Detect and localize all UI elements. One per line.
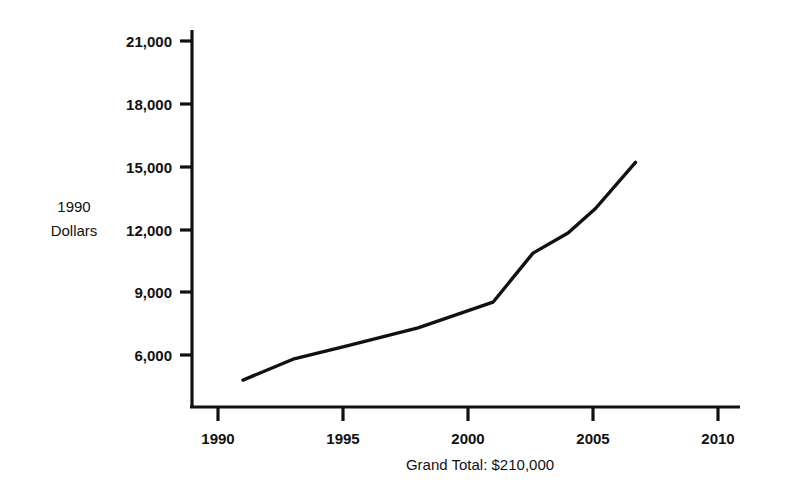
x-axis-tick-labels: 1990 1995 2000 2005 2010	[201, 430, 734, 447]
chart-canvas: 21,000 18,000 15,000 12,000 9,000 6,000 …	[0, 0, 787, 501]
x-tick-label-1995: 1995	[326, 430, 359, 447]
y-tick-label-12000: 12,000	[126, 222, 172, 239]
data-series-line	[243, 162, 636, 380]
x-tick-label-2010: 2010	[701, 430, 734, 447]
x-tick-label-2000: 2000	[451, 430, 484, 447]
y-tick-label-6000: 6,000	[134, 347, 172, 364]
y-tick-label-15000: 15,000	[126, 159, 172, 176]
y-axis-title-line-2: Dollars	[51, 222, 98, 239]
y-axis-title: 1990 Dollars	[51, 198, 98, 239]
y-axis-title-line-1: 1990	[57, 198, 90, 215]
x-axis-ticks	[218, 407, 718, 421]
chart-caption: Grand Total: $210,000	[406, 456, 554, 473]
x-tick-label-2005: 2005	[576, 430, 609, 447]
y-tick-label-21000: 21,000	[126, 33, 172, 50]
y-axis-ticks	[180, 41, 192, 355]
y-tick-label-18000: 18,000	[126, 96, 172, 113]
y-axis-tick-labels: 21,000 18,000 15,000 12,000 9,000 6,000	[126, 33, 172, 364]
x-tick-label-1990: 1990	[201, 430, 234, 447]
line-chart: 21,000 18,000 15,000 12,000 9,000 6,000 …	[0, 0, 787, 501]
y-tick-label-9000: 9,000	[134, 284, 172, 301]
